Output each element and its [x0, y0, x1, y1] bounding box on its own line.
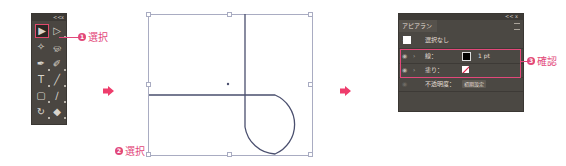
panel-menu-icon[interactable] [514, 23, 520, 30]
pen-icon: ✒ [37, 58, 45, 69]
lasso-tool[interactable]: ஓ [51, 41, 63, 53]
object-thumbnail [403, 36, 411, 44]
lasso-icon: ஓ [53, 41, 61, 52]
callout-3-label: 確認 [537, 56, 557, 67]
callout-3-badge: 3 [527, 57, 535, 65]
callout-2-badge: 2 [115, 147, 123, 155]
appearance-panel: << x アピアランス 選択なし ◉ › 線： 1 pt ◉ › 塗り： ◉ 不… [398, 13, 524, 112]
curvature-icon: ✐ [53, 58, 61, 69]
line-tool[interactable]: ╱ [51, 74, 63, 86]
direct-selection-tool[interactable]: ▷ [51, 25, 63, 37]
brush-icon: ∕ [55, 90, 58, 101]
line-icon: ╱ [54, 74, 60, 85]
brush-tool[interactable]: ∕ [51, 90, 63, 102]
eraser-tool[interactable]: ◆ [51, 106, 63, 118]
opacity-label: 不透明度： [425, 78, 455, 90]
close-icon[interactable]: x [515, 14, 518, 19]
callout-3-highlight [400, 49, 521, 78]
collapse-icon[interactable]: << [505, 14, 513, 19]
callout-1-label: 選択 [88, 32, 108, 43]
callout-1-badge: 1 [78, 33, 86, 41]
close-icon[interactable]: x [61, 15, 64, 20]
arrow-right-icon [103, 86, 114, 96]
rotate-tool[interactable]: ↻ [35, 106, 47, 118]
opacity-row[interactable]: ◉ 不透明度： 初期設定 [399, 78, 523, 90]
rotate-icon: ↻ [37, 106, 45, 117]
visibility-eye-icon: ◉ [402, 78, 407, 90]
center-point [227, 83, 229, 85]
type-icon: T [38, 74, 44, 85]
pen-tool[interactable]: ✒ [35, 58, 47, 70]
type-tool[interactable]: T [35, 74, 47, 86]
curvature-tool[interactable]: ✐ [51, 58, 63, 70]
selected-path[interactable] [140, 0, 320, 166]
callout-1-leader [59, 37, 79, 38]
object-row: 選択なし [399, 34, 523, 46]
selection-arrow-icon: ▶ [38, 25, 46, 36]
tab-appearance[interactable]: アピアランス [399, 20, 437, 32]
callout-2-label: 選択 [125, 146, 145, 157]
selection-tool[interactable]: ▶ [35, 24, 49, 38]
direct-selection-arrow-icon: ▷ [53, 25, 61, 36]
rectangle-icon: ▢ [36, 90, 45, 101]
arrow-right-icon [340, 86, 351, 96]
object-label: 選択なし [425, 34, 449, 46]
tools-panel: << x ▶ ▷ ✧ ஓ ✒ ✐ T ╱ ▢ ∕ ↻ ◆ [31, 13, 67, 125]
tools-panel-titlebar[interactable]: << x [32, 14, 66, 21]
rectangle-tool[interactable]: ▢ [35, 90, 47, 102]
magic-wand-icon: ✧ [37, 41, 45, 52]
eraser-icon: ◆ [53, 106, 61, 117]
magic-wand-tool[interactable]: ✧ [35, 41, 47, 53]
opacity-value[interactable]: 初期設定 [462, 80, 486, 88]
